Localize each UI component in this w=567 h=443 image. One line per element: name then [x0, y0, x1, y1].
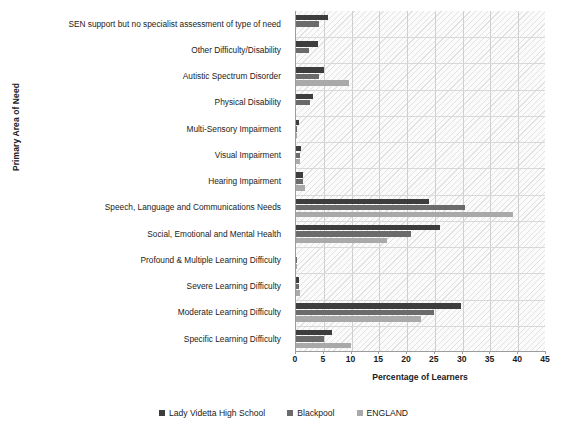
- bar-1: [296, 153, 300, 158]
- category-label: Visual Impairment: [14, 142, 288, 168]
- bar-0: [296, 67, 324, 72]
- bar-1: [296, 231, 411, 236]
- bar-0: [296, 146, 301, 151]
- bar-0: [296, 120, 299, 125]
- bar-group: [296, 168, 545, 194]
- category-label: Profound & Multiple Learning Difficulty: [14, 247, 288, 273]
- category-label: Specific Learning Difficulty: [14, 326, 288, 352]
- bar-1: [296, 74, 319, 79]
- legend-item[interactable]: ENGLAND: [357, 408, 409, 418]
- category-label: Moderate Learning Difficulty: [14, 300, 288, 326]
- bar-2: [296, 316, 421, 321]
- bar-group: [296, 11, 545, 37]
- bar-group: [296, 300, 545, 326]
- chart-legend: Lady Videtta High SchoolBlackpoolENGLAND: [0, 408, 567, 418]
- bar-0: [296, 303, 461, 308]
- legend-swatch-icon: [287, 410, 293, 416]
- bar-group: [296, 116, 545, 142]
- category-label: SEN support but no specialist assessment…: [14, 11, 288, 37]
- bar-0: [296, 199, 429, 204]
- bar-group: [296, 63, 545, 89]
- x-tick-label: 20: [391, 354, 421, 364]
- x-tick-label: 25: [419, 354, 449, 364]
- bar-1: [296, 48, 309, 53]
- x-axis-ticks: 051015202530354045: [295, 354, 545, 368]
- bar-group: [296, 247, 545, 273]
- bar-1: [296, 257, 297, 262]
- bar-2: [296, 343, 351, 348]
- bar-2: [296, 290, 300, 295]
- bar-1: [296, 284, 299, 289]
- bar-1: [296, 21, 319, 26]
- bar-0: [296, 15, 328, 20]
- x-tick-label: 45: [530, 354, 560, 364]
- legend-label: Lady Videtta High School: [169, 408, 265, 418]
- category-label: Other Difficulty/Disability: [14, 37, 288, 63]
- legend-item[interactable]: Blackpool: [287, 408, 334, 418]
- bar-group: [296, 195, 545, 221]
- legend-item[interactable]: Lady Videtta High School: [159, 408, 265, 418]
- category-label: Hearing Impairment: [14, 168, 288, 194]
- bar-1: [296, 205, 465, 210]
- bar-1: [296, 336, 324, 341]
- bar-2: [296, 80, 349, 85]
- category-axis-labels: SEN support but no specialist assessment…: [14, 11, 288, 352]
- bar-group: [296, 37, 545, 63]
- plot-area: [295, 11, 545, 352]
- bar-2: [296, 264, 297, 269]
- x-tick-label: 30: [447, 354, 477, 364]
- x-tick-label: 0: [280, 354, 310, 364]
- legend-swatch-icon: [357, 410, 363, 416]
- x-tick-label: 15: [363, 354, 393, 364]
- bar-groups: [296, 11, 545, 351]
- category-label: Social, Emotional and Mental Health: [14, 221, 288, 247]
- bar-1: [296, 126, 297, 131]
- bar-2: [296, 159, 300, 164]
- bar-0: [296, 225, 440, 230]
- x-tick-label: 10: [336, 354, 366, 364]
- bar-1: [296, 179, 303, 184]
- bar-0: [296, 172, 303, 177]
- category-label: Speech, Language and Communications Need…: [14, 195, 288, 221]
- bar-1: [296, 310, 434, 315]
- category-label: Multi-Sensory Impairment: [14, 116, 288, 142]
- bar-0: [296, 330, 332, 335]
- bar-0: [296, 41, 318, 46]
- category-label: Autistic Spectrum Disorder: [14, 63, 288, 89]
- bar-group: [296, 142, 545, 168]
- legend-label: ENGLAND: [367, 408, 409, 418]
- bar-2: [296, 185, 305, 190]
- bar-0: [296, 277, 299, 282]
- bar-2: [296, 133, 297, 138]
- legend-swatch-icon: [159, 410, 165, 416]
- bar-group: [296, 221, 545, 247]
- bar-2: [296, 238, 387, 243]
- bar-2: [296, 212, 513, 217]
- category-label: Severe Learning Difficulty: [14, 273, 288, 299]
- x-tick-label: 35: [474, 354, 504, 364]
- x-tick-label: 5: [308, 354, 338, 364]
- bar-group: [296, 326, 545, 352]
- x-tick-label: 40: [502, 354, 532, 364]
- legend-label: Blackpool: [297, 408, 334, 418]
- bar-group: [296, 90, 545, 116]
- bar-1: [296, 100, 310, 105]
- bar-chart: Primary Area of Need SEN support but no …: [0, 0, 567, 443]
- bar-0: [296, 94, 313, 99]
- bar-group: [296, 273, 545, 299]
- x-axis-title: Percentage of Learners: [295, 372, 545, 382]
- category-label: Physical Disability: [14, 90, 288, 116]
